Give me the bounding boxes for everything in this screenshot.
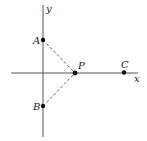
segment-BP: [43, 73, 75, 106]
point-B: [41, 104, 45, 108]
label-A: A: [32, 35, 40, 46]
label-B: B: [32, 101, 40, 112]
y-axis-label: y: [45, 3, 52, 14]
label-P: P: [77, 60, 85, 71]
label-C: C: [121, 59, 129, 70]
point-P: [73, 71, 78, 76]
coordinate-diagram: y x A B P C: [0, 0, 147, 141]
x-axis-label: x: [134, 73, 140, 84]
segment-AP: [43, 40, 75, 73]
point-A: [41, 38, 45, 42]
point-C: [122, 70, 126, 74]
